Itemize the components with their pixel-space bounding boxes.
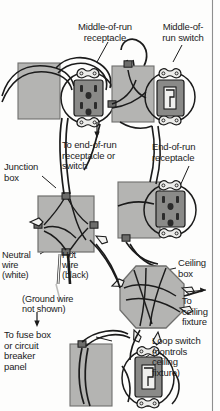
wiring-diagram: Middle-of-run receptacle Middle-of- run … [0, 0, 220, 411]
label-hot-wire: Hot wire (black) [62, 250, 102, 281]
label-ground-note: (Ground wire not shown) [22, 294, 110, 314]
label-loop-switch: Loop switch (controls ceiling fixture) [152, 336, 214, 378]
label-to-ceiling-fixture: To ceiling fixture [182, 296, 214, 328]
junction-box [34, 193, 98, 255]
label-end-of-run-receptacle: End-of-run receptacle [152, 142, 214, 163]
wall-box-lower-left [70, 341, 112, 406]
label-to-end-of-run: To end-of-run receptacle or switch [62, 140, 152, 172]
label-to-fuse-box: To fuse box or circuit breaker panel [4, 330, 70, 372]
wall-box-middle-right [118, 182, 160, 241]
label-neutral-wire: Neutral wire (white) [2, 250, 46, 281]
label-middle-of-run-receptacle: Middle-of-run receptacle [63, 22, 147, 43]
label-junction-box: Junction box [4, 162, 52, 183]
ceiling-box [120, 266, 184, 328]
label-ceiling-box: Ceiling box [178, 258, 214, 279]
label-middle-of-run-switch: Middle-of- run switch [152, 22, 214, 43]
